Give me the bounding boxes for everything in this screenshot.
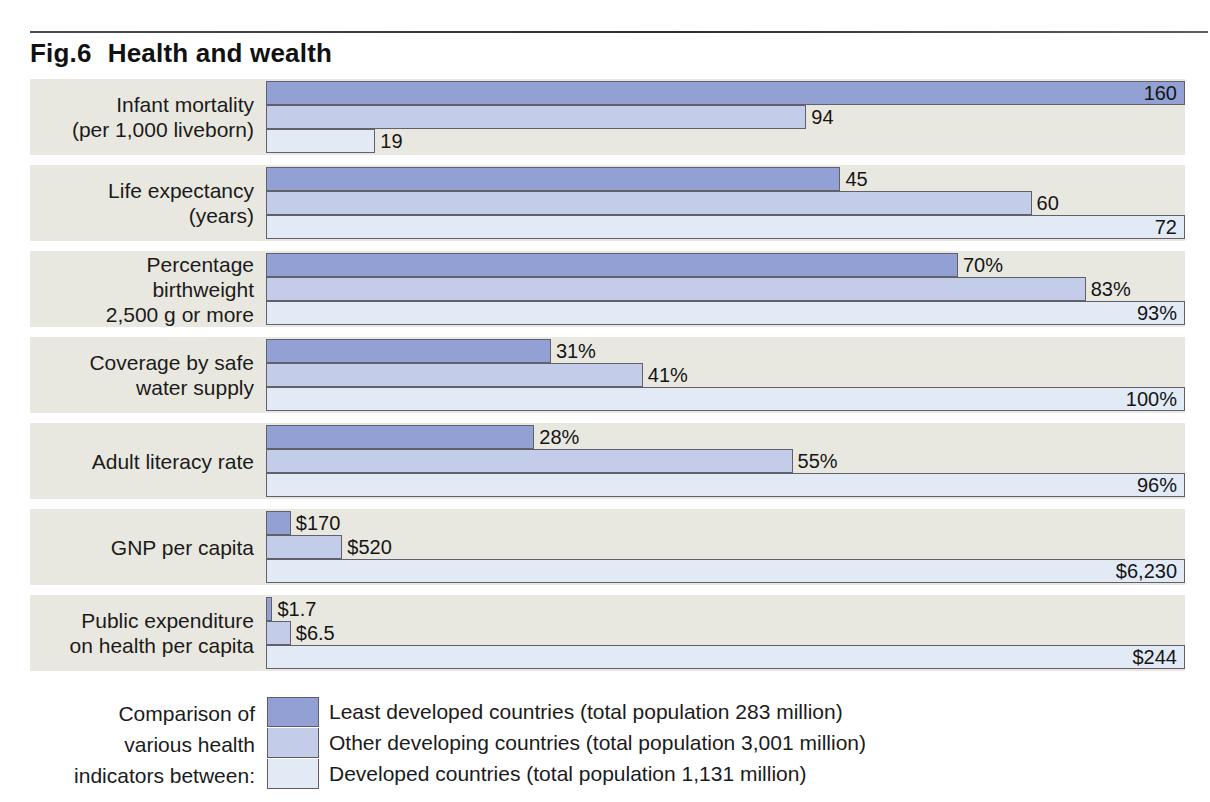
bar-segment[interactable]: 19 [266,129,375,153]
legend-swatch-icon [267,759,319,789]
bar-line: 45 [266,167,1185,191]
bar-value-label: $520 [347,537,392,557]
bar-segment[interactable]: 70% [266,253,958,277]
row-bars: 28%55%96% [266,423,1185,499]
chart-row: Percentagebirthweight2,500 g or more70%8… [30,251,1185,327]
legend-entry-label: Other developing countries (total popula… [329,732,866,753]
bar-value-label: 93% [1137,303,1177,323]
chart-row: Infant mortality(per 1,000 liveborn)1609… [30,79,1185,155]
row-bars: $170$520$6,230 [266,509,1185,585]
bar-segment[interactable]: 83% [266,277,1086,301]
bar-line: $244 [266,645,1185,669]
bar-segment[interactable]: $1.7 [266,597,272,621]
bar-line: $170 [266,511,1185,535]
row-bars: $1.7$6.5$244 [266,595,1185,671]
bar-segment[interactable]: 100% [266,387,1185,411]
bar-line: 41% [266,363,1185,387]
bar-value-label: 100% [1126,389,1177,409]
row-label: Infant mortality(per 1,000 liveborn) [30,79,266,155]
bar-segment[interactable]: 60 [266,191,1032,215]
row-label: Coverage by safewater supply [30,337,266,413]
bar-value-label: 96% [1137,475,1177,495]
bar-line: $520 [266,535,1185,559]
bar-segment[interactable]: $520 [266,535,342,559]
bar-segment[interactable]: 28% [266,425,534,449]
bar-value-label: 83% [1091,279,1131,299]
legend-swatch-icon [267,728,319,758]
bar-segment[interactable]: 160 [266,81,1185,105]
row-label-line: (per 1,000 liveborn) [72,117,254,142]
bar-line: 55% [266,449,1185,473]
figure-number: Fig.6 [30,38,92,68]
legend-swatch-icon [267,697,319,727]
row-label: Life expectancy(years) [30,165,266,241]
row-label-line: 2,500 g or more [106,302,254,327]
bar-segment[interactable]: 41% [266,363,643,387]
bar-value-label: 55% [798,451,838,471]
bar-value-label: $170 [296,513,341,533]
chart-row: Public expenditureon health per capita$1… [30,595,1185,671]
bar-line: 93% [266,301,1185,325]
row-bars: 70%83%93% [266,251,1185,327]
row-label-line: Public expenditure [81,608,254,633]
row-bars: 31%41%100% [266,337,1185,413]
row-label-line: Coverage by safe [89,350,254,375]
bar-value-label: $6,230 [1116,561,1177,581]
bar-line: $6,230 [266,559,1185,583]
chart-row: Adult literacy rate28%55%96% [30,423,1185,499]
row-label-line: (years) [189,203,254,228]
legend-caption-line: Comparison of [118,698,255,729]
bar-line: 70% [266,253,1185,277]
bar-value-label: 70% [963,255,1003,275]
bar-segment[interactable]: 93% [266,301,1185,325]
bar-segment[interactable]: $6.5 [266,621,291,645]
chart-row: Life expectancy(years)456072 [30,165,1185,241]
bar-segment[interactable]: 94 [266,105,806,129]
bar-segment[interactable]: 72 [266,215,1185,239]
bar-line: 94 [266,105,1185,129]
legend-entry-list: Least developed countries (total populat… [267,696,866,789]
row-bars: 456072 [266,165,1185,241]
bar-value-label: $6.5 [296,623,335,643]
bar-segment[interactable]: $170 [266,511,291,535]
row-label-line: Adult literacy rate [92,449,254,474]
bar-segment[interactable]: 96% [266,473,1185,497]
chart-legend: Comparison ofvarious healthindicators be… [30,694,1190,794]
row-label-line: Percentage [147,252,254,277]
legend-caption-line: various health [124,729,255,760]
bar-segment[interactable]: $6,230 [266,559,1185,583]
bar-value-label: 41% [648,365,688,385]
row-bars: 1609419 [266,79,1185,155]
bar-segment[interactable]: 55% [266,449,793,473]
row-label: Public expenditureon health per capita [30,595,266,671]
figure-health-and-wealth: Fig.6Health and wealth Infant mortality(… [0,0,1210,802]
header-rule [30,31,1208,33]
legend-entry[interactable]: Other developing countries (total popula… [267,727,866,758]
bar-line: 160 [266,81,1185,105]
row-label: Percentagebirthweight2,500 g or more [30,251,266,327]
bar-value-label: 94 [811,107,833,127]
bar-line: $6.5 [266,621,1185,645]
bar-value-label: 28% [539,427,579,447]
chart-row: Coverage by safewater supply31%41%100% [30,337,1185,413]
bar-segment[interactable]: 31% [266,339,551,363]
row-label: Adult literacy rate [30,423,266,499]
bar-value-label: 45 [845,169,867,189]
chart-row: GNP per capita$170$520$6,230 [30,509,1185,585]
bar-line: 72 [266,215,1185,239]
bar-line: 28% [266,425,1185,449]
legend-entry[interactable]: Least developed countries (total populat… [267,696,866,727]
bar-line: 100% [266,387,1185,411]
bar-segment[interactable]: 45 [266,167,840,191]
row-label-line: water supply [136,375,254,400]
bar-line: $1.7 [266,597,1185,621]
bar-segment[interactable]: $244 [266,645,1185,669]
figure-title-text: Health and wealth [108,38,332,68]
bar-value-label: 31% [556,341,596,361]
legend-caption: Comparison ofvarious healthindicators be… [30,694,265,794]
row-label-line: Life expectancy [108,178,254,203]
bar-value-label: 60 [1037,193,1059,213]
chart-plot-area: Infant mortality(per 1,000 liveborn)1609… [30,79,1185,683]
row-label-line: GNP per capita [111,535,254,560]
legend-entry[interactable]: Developed countries (total population 1,… [267,758,866,789]
